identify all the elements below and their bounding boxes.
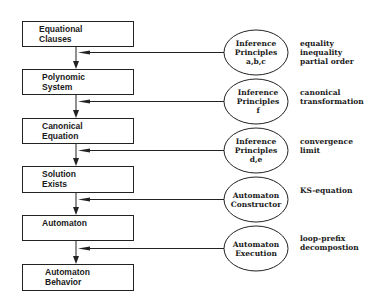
box-label-line-2: System bbox=[42, 83, 133, 93]
ellipse-label-line-2: Principles bbox=[237, 97, 279, 106]
annotation-1: equality inequality partial order bbox=[300, 39, 354, 66]
annotation-line: convergence bbox=[300, 137, 353, 146]
ellipse-label-line-1: Automaton bbox=[233, 191, 279, 200]
annotation-3: convergence limit bbox=[300, 137, 353, 155]
ellipse-label-line-1: Inference bbox=[238, 88, 278, 97]
annotation-4: KS-equation bbox=[300, 186, 352, 195]
annotation-line: KS-equation bbox=[300, 186, 352, 195]
box-automaton: Automaton bbox=[22, 215, 134, 241]
ellipse-label-line-2: Execution bbox=[235, 249, 277, 258]
ellipse-label-line-2: Principles bbox=[235, 48, 277, 57]
ellipse-inference-principles-de: Inference Principles d,e bbox=[224, 128, 288, 173]
box-label-line-2: Clauses bbox=[39, 35, 133, 45]
flowchart-diagram: Equational Clauses Polynomic System Cano… bbox=[0, 0, 381, 303]
box-polynomic-system: Polynomic System bbox=[22, 69, 134, 95]
ellipse-label-line-3: a,b,c bbox=[246, 57, 266, 66]
annotation-line: equality bbox=[300, 39, 354, 48]
box-label-line-2: Behavior bbox=[45, 278, 133, 288]
box-canonical-equation: Canonical Equation bbox=[22, 118, 134, 144]
annotation-line: canonical bbox=[300, 88, 364, 97]
ellipse-label-line-1: Automaton bbox=[233, 240, 279, 249]
ellipse-label-line-3: f bbox=[256, 106, 259, 115]
ellipse-label-line-1: Inference bbox=[236, 39, 276, 48]
annotation-line: decompostion bbox=[300, 243, 359, 252]
box-automaton-behavior: Automaton Behavior bbox=[22, 264, 134, 291]
ellipse-label-line-2: Constructor bbox=[231, 200, 282, 209]
annotation-2: canonical transformation bbox=[300, 88, 364, 106]
annotation-line: loop-prefix bbox=[300, 234, 359, 243]
annotation-line: limit bbox=[300, 146, 353, 155]
box-solution-exists: Solution Exists bbox=[22, 166, 134, 193]
box-label-line-2: Exists bbox=[42, 180, 133, 190]
ellipse-label-line-2: Principles bbox=[235, 146, 277, 155]
annotation-line: inequality bbox=[300, 48, 354, 57]
box-label-line-1: Automaton bbox=[42, 219, 133, 229]
ellipse-label-line-1: Inference bbox=[236, 137, 276, 146]
box-equational-clauses: Equational Clauses bbox=[22, 21, 134, 47]
annotation-5: loop-prefix decompostion bbox=[300, 234, 359, 252]
annotation-line: transformation bbox=[300, 97, 364, 106]
ellipse-label-line-3: d,e bbox=[250, 155, 263, 164]
annotation-line: partial order bbox=[300, 57, 354, 66]
box-label-line-2: Equation bbox=[42, 132, 133, 142]
ellipse-inference-principles-abc: Inference Principles a,b,c bbox=[224, 30, 288, 75]
ellipse-inference-principles-f: Inference Principles f bbox=[226, 79, 290, 124]
ellipse-automaton-constructor: Automaton Constructor bbox=[224, 177, 288, 222]
ellipse-automaton-execution: Automaton Execution bbox=[224, 226, 288, 271]
